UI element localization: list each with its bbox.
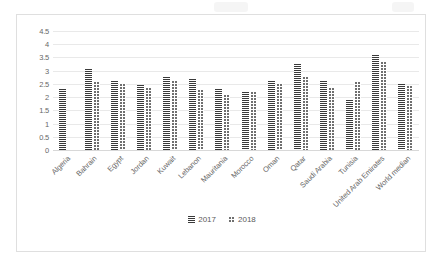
- legend-swatch-icon: [188, 216, 195, 223]
- x-axis-label-cell: Algeria: [53, 151, 79, 211]
- x-axis-tick-label: Kuwait: [155, 154, 177, 176]
- x-axis-label-cell: Morocco: [236, 151, 262, 211]
- y-axis-tick-label: 4.5: [39, 27, 49, 36]
- y-axis-tick-label: 2: [45, 93, 49, 102]
- y-axis-tick-label: 2.5: [39, 79, 49, 88]
- x-axis-label-cell: Egypt: [105, 151, 131, 211]
- chart-container: 00.511.522.533.544.5 AlgeriaBahrainEgypt…: [16, 14, 426, 252]
- y-axis-tick-label: 4: [45, 40, 49, 49]
- bar-united-arab-emirates-2017: [372, 55, 379, 150]
- bar-group: [105, 31, 131, 150]
- bar-united-arab-emirates-2018: [380, 61, 387, 150]
- x-axis-tick-label: Qatar: [288, 154, 307, 173]
- bar-group: [288, 31, 314, 150]
- y-axis-tick-label: 1.5: [39, 106, 49, 115]
- bar-mauritania-2018: [223, 94, 230, 150]
- x-axis-tick-label: Algeria: [50, 154, 72, 176]
- legend-label: 2017: [198, 215, 216, 224]
- bar-algeria-2017: [59, 89, 66, 150]
- bar-world-median-2018: [406, 85, 413, 150]
- bar-group: [341, 31, 367, 150]
- bar-group: [184, 31, 210, 150]
- bar-morocco-2017: [242, 92, 249, 150]
- x-axis-tick-label: Egypt: [105, 154, 125, 174]
- bar-group: [79, 31, 105, 150]
- x-axis-label-cell: World median: [393, 151, 419, 211]
- legend-item-2017[interactable]: 2017: [188, 215, 216, 224]
- legend-swatch-icon: [228, 216, 235, 223]
- bar-morocco-2018: [250, 91, 257, 151]
- y-axis-tick-label: 1: [45, 119, 49, 128]
- bar-group: [262, 31, 288, 150]
- bar-lebanon-2017: [189, 79, 196, 150]
- x-axis-label-cell: Kuwait: [158, 151, 184, 211]
- bar-world-median-2017: [398, 84, 405, 150]
- bar-kuwait-2018: [171, 80, 178, 150]
- bar-jordan-2018: [145, 87, 152, 150]
- bar-lebanon-2018: [197, 89, 204, 150]
- bar-egypt-2017: [111, 81, 118, 150]
- bar-group: [314, 31, 340, 150]
- bar-group: [210, 31, 236, 150]
- bar-oman-2017: [268, 81, 275, 150]
- y-axis-tick-label: 3.5: [39, 53, 49, 62]
- x-axis-label-cell: Mauritania: [210, 151, 236, 211]
- plot-area: 00.511.522.533.544.5 AlgeriaBahrainEgypt…: [17, 15, 427, 253]
- bar-group: [367, 31, 393, 150]
- x-axis-tick-label: Oman: [261, 154, 282, 175]
- y-axis-tick-label: 0: [45, 146, 49, 155]
- bar-group: [393, 31, 419, 150]
- bar-saudi-arabia-2017: [320, 81, 327, 150]
- bar-group: [53, 31, 79, 150]
- scan-artifact-top-left: [214, 2, 248, 12]
- x-axis-label-cell: Oman: [262, 151, 288, 211]
- bar-tunisia-2018: [354, 81, 361, 150]
- bar-mauritania-2017: [215, 89, 222, 150]
- bar-group: [158, 31, 184, 150]
- x-axis-tick-label: Jordan: [129, 154, 151, 176]
- bar-tunisia-2017: [346, 100, 353, 150]
- x-axis-label-cell: Bahrain: [79, 151, 105, 211]
- scan-artifact-top-right: [392, 2, 414, 12]
- bar-group: [131, 31, 157, 150]
- y-axis-tick-label: 0.5: [39, 132, 49, 141]
- legend-label: 2018: [238, 215, 256, 224]
- chart-legend: 20172018: [17, 215, 427, 224]
- bar-bahrain-2018: [93, 81, 100, 150]
- bar-kuwait-2017: [163, 77, 170, 150]
- legend-item-2018[interactable]: 2018: [228, 215, 256, 224]
- bar-qatar-2018: [302, 76, 309, 150]
- bar-bahrain-2017: [85, 69, 92, 150]
- y-axis-tick-label: 3: [45, 66, 49, 75]
- bar-series-group: [53, 31, 419, 150]
- bar-jordan-2017: [137, 85, 144, 150]
- x-axis-label-cell: Jordan: [131, 151, 157, 211]
- bar-qatar-2017: [294, 64, 301, 150]
- y-axis: 00.511.522.533.544.5: [23, 31, 49, 150]
- bar-saudi-arabia-2018: [328, 87, 335, 150]
- bar-group: [236, 31, 262, 150]
- x-axis-labels: AlgeriaBahrainEgyptJordanKuwaitLebanonMa…: [53, 151, 419, 211]
- x-axis-tick-label: Tunisia: [337, 154, 360, 177]
- bar-egypt-2018: [119, 83, 126, 150]
- bar-oman-2018: [276, 83, 283, 150]
